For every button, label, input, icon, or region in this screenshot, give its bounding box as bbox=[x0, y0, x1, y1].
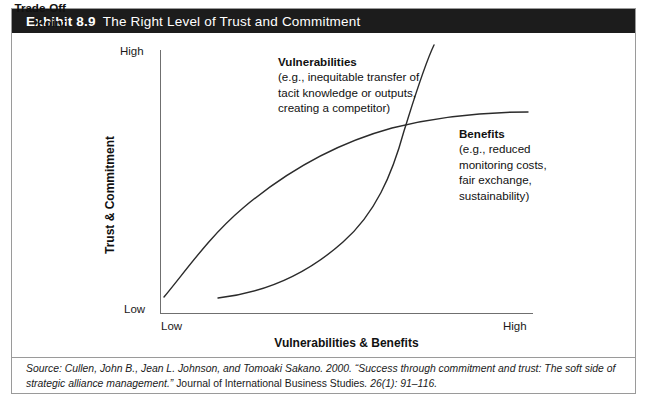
exhibit-figure: Exhibit 8.9 The Right Level of Trust and… bbox=[0, 0, 650, 404]
exhibit-title-bar: Exhibit 8.9 The Right Level of Trust and… bbox=[12, 9, 635, 33]
exhibit-frame bbox=[11, 8, 636, 394]
source-citation-part2: . 26(1): 91–116. bbox=[364, 378, 437, 389]
source-citation-journal: Journal of International Business Studie… bbox=[176, 378, 364, 389]
source-divider bbox=[12, 357, 635, 358]
exhibit-title: The Right Level of Trust and Commitment bbox=[103, 14, 361, 29]
source-citation: Source: Cullen, John B., Jean L. Johnson… bbox=[26, 362, 626, 391]
exhibit-number: Exhibit 8.9 bbox=[26, 14, 96, 29]
